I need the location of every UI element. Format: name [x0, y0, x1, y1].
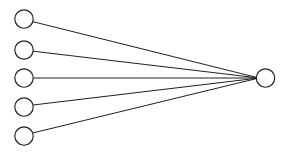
- edges-group: [33, 22, 257, 133]
- input-nodes-group: [15, 10, 33, 145]
- output-nodes-group: [256, 69, 274, 87]
- input-node-input-2[interactable]: [15, 41, 33, 59]
- input-node-input-5[interactable]: [15, 127, 33, 145]
- input-node-input-1[interactable]: [15, 10, 33, 28]
- edge-input-4-to-output-1: [33, 78, 257, 105]
- edge-input-5-to-output-1: [33, 79, 257, 133]
- input-node-input-4[interactable]: [15, 98, 33, 116]
- edge-input-1-to-output-1: [33, 22, 257, 78]
- edge-input-2-to-output-1: [33, 51, 257, 77]
- input-node-input-3[interactable]: [15, 69, 33, 87]
- diagram-canvas: [0, 0, 292, 159]
- output-node-output-1[interactable]: [256, 69, 274, 87]
- node-link-diagram: [0, 0, 292, 159]
